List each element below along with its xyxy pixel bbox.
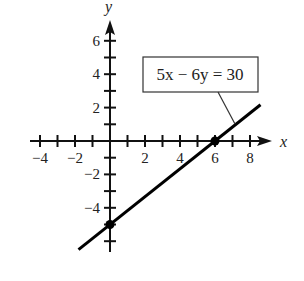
intercept-point: [211, 137, 220, 146]
equation-line: [79, 105, 261, 250]
svg-text:6: 6: [93, 33, 101, 49]
graph-figure: −4−22468 642−2−4 x y 5x − 6y = 30: [0, 0, 304, 281]
svg-text:2: 2: [141, 150, 149, 166]
svg-text:2: 2: [93, 100, 101, 116]
svg-text:−2: −2: [84, 166, 100, 182]
x-tick-labels: −4−22468: [32, 150, 254, 166]
svg-text:4: 4: [176, 150, 184, 166]
svg-text:4: 4: [93, 66, 101, 82]
coordinate-plane: −4−22468 642−2−4 x y 5x − 6y = 30: [0, 0, 304, 281]
y-tick-labels: 642−2−4: [84, 33, 100, 216]
intercept-point: [106, 220, 115, 229]
x-axis-label: x: [279, 133, 287, 150]
svg-text:−2: −2: [67, 150, 83, 166]
y-axis-label: y: [103, 0, 113, 16]
svg-text:6: 6: [211, 150, 219, 166]
svg-text:−4: −4: [84, 200, 100, 216]
equation-label: 5x − 6y = 30: [156, 65, 243, 84]
svg-text:−4: −4: [32, 150, 48, 166]
label-leader-line: [218, 92, 235, 124]
svg-text:8: 8: [246, 150, 254, 166]
